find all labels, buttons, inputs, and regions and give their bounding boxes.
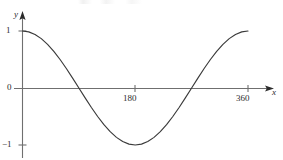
x-tick-label-360: 360 (236, 94, 250, 103)
x-axis-label: x (272, 88, 276, 97)
x-tick-label-180: 180 (123, 94, 137, 103)
y-tick-label-minus-1: −1 (2, 140, 12, 149)
y-axis-label: y (14, 10, 18, 19)
cosine-graph-figure: y x 1 0 −1 180 360 (0, 0, 283, 160)
origin-label: 0 (7, 83, 12, 92)
plot-canvas (0, 0, 283, 160)
y-tick-label-1: 1 (6, 26, 11, 35)
